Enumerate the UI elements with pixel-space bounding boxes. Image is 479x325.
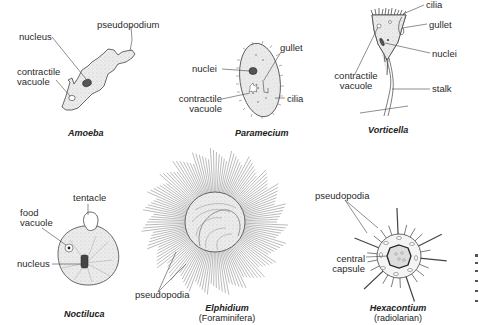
protozoa-diagram [0,0,479,325]
caption-elphidium-subtitle: (Foraminifera) [190,313,264,323]
label-vacuole: vacuole [20,218,53,228]
hexacontium-central-capsule [387,245,411,268]
label-gullet: gullet [429,20,452,30]
elphidium-test [185,192,245,252]
caption-vorticella: Vorticella [368,125,408,135]
noctiluca-drawing [42,204,119,285]
elphidium-drawing [142,148,288,295]
paramecium-drawing [222,41,285,120]
caption-hexacontium-subtitle: (radiolarian) [363,313,433,323]
page-edge-mark [475,270,478,272]
label-nuclei: nuclei [192,64,217,74]
label-vacuole: vacuole [326,81,386,91]
noctiluca-nucleus [81,255,88,268]
caption-elphidium: Elphidium [197,303,257,313]
caption-noctiluca: Noctiluca [64,309,105,319]
label-nucleus: nucleus [19,32,52,42]
label-gullet: gullet [280,43,303,53]
page-edge-mark [475,254,478,257]
hexacontium-drawing [345,200,447,301]
label-vacuole: vacuole [172,104,222,114]
page-edge-mark [475,300,478,302]
label-pseudopodia: pseudopodia [315,191,369,201]
label-pseudopodium: pseudopodium [97,20,159,30]
noctiluca-body [58,225,119,285]
label-cilia: cilia [426,0,442,10]
label-stalk: stalk [432,84,452,94]
caption-hexacontium: Hexacontium [363,303,433,313]
page-edge-mark [475,290,478,292]
label-capsule: capsule [320,264,365,274]
label-nuclei: nuclei [432,49,457,59]
label-cilia: cilia [287,94,303,104]
page-edge-mark [475,280,478,282]
amoeba-body [62,49,135,110]
caption-paramecium: Paramecium [235,128,289,138]
label-nucleus: nucleus [17,259,50,269]
label-tentacle: tentacle [73,193,106,203]
label-vacuole: vacuole [17,77,50,87]
noctiluca-tentacle [84,212,98,231]
page-edge-mark [475,262,478,264]
paramecium-body [235,41,285,120]
amoeba-drawing [52,26,135,110]
label-pseudopodia: pseudopodia [135,290,189,300]
paramecium-nuclei [249,68,257,75]
vorticella-drawing [355,5,430,116]
caption-amoeba: Amoeba [68,128,104,138]
